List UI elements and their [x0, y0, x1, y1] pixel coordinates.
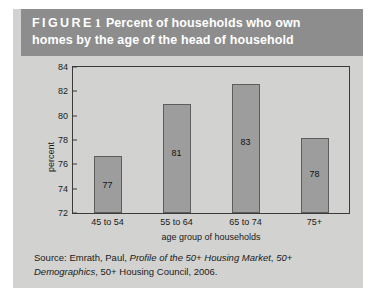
figure-header: FIGURE1Percent of households who own hom… — [21, 9, 363, 56]
y-tick-label: 78 — [58, 135, 68, 145]
x-axis-label: age group of households — [72, 232, 350, 242]
bar-65-to-74: 83 — [232, 84, 260, 213]
bar-chart: percent 72 74 76 78 80 82 84 77 45 to 54 — [13, 56, 363, 244]
source-prefix: Source: Emrath, Paul, — [34, 252, 130, 263]
x-tick-label-2: 65 to 74 — [229, 217, 262, 227]
y-tick-74: 74 — [58, 184, 73, 194]
plot-area: 72 74 76 78 80 82 84 77 45 to 54 81 — [72, 66, 350, 214]
figure-header-line-1: FIGURE1Percent of households who own — [32, 15, 363, 32]
y-tick-84: 84 — [58, 62, 73, 72]
source-rest: , 50+ Housing Council, 2006. — [95, 266, 217, 277]
bar-45-to-54: 77 — [94, 156, 122, 213]
bar-55-to-64: 81 — [163, 104, 191, 214]
x-tick-label-1: 55 to 64 — [160, 217, 193, 227]
y-tick-76: 76 — [58, 159, 73, 169]
y-tick-label: 80 — [58, 111, 68, 121]
figure-header-line-2: homes by the age of the head of househol… — [32, 32, 363, 49]
x-tick-label-0: 45 to 54 — [91, 217, 124, 227]
y-tick-72: 72 — [58, 208, 73, 218]
figure-panel: FIGURE1Percent of households who own hom… — [13, 9, 363, 288]
y-tick-label: 84 — [58, 62, 68, 72]
figure-label-word: FIGURE — [32, 16, 94, 30]
source-comma: , — [271, 252, 274, 263]
bar-value-label: 81 — [164, 148, 190, 158]
source-title-1: Profile of the 50+ Housing Market — [130, 252, 271, 263]
bar-slot-0: 77 45 to 54 — [73, 67, 142, 213]
y-tick-label: 74 — [58, 184, 68, 194]
bar-75-plus: 78 — [301, 138, 329, 213]
y-tick-82: 82 — [58, 86, 73, 96]
y-tick-78: 78 — [58, 135, 73, 145]
bar-slot-3: 78 75+ — [280, 67, 349, 213]
source-note: Source: Emrath, Paul, Profile of the 50+… — [34, 251, 354, 279]
bar-value-label: 83 — [233, 137, 259, 147]
x-tick-label-3: 75+ — [307, 217, 322, 227]
bar-series: 77 45 to 54 81 55 to 64 83 65 to 74 — [73, 67, 349, 213]
bar-slot-1: 81 55 to 64 — [142, 67, 211, 213]
figure-title-line-2: homes by the age of the head of househol… — [32, 33, 294, 47]
bar-value-label: 78 — [302, 169, 328, 179]
bar-value-label: 77 — [95, 180, 121, 190]
y-axis-label: percent — [46, 117, 56, 197]
figure-label-number: 1 — [94, 16, 106, 30]
y-tick-80: 80 — [58, 111, 73, 121]
bar-slot-2: 83 65 to 74 — [211, 67, 280, 213]
figure-title-line-1: Percent of households who own — [106, 16, 301, 30]
y-tick-label: 72 — [58, 208, 68, 218]
y-tick-label: 82 — [58, 86, 68, 96]
y-tick-label: 76 — [58, 159, 68, 169]
